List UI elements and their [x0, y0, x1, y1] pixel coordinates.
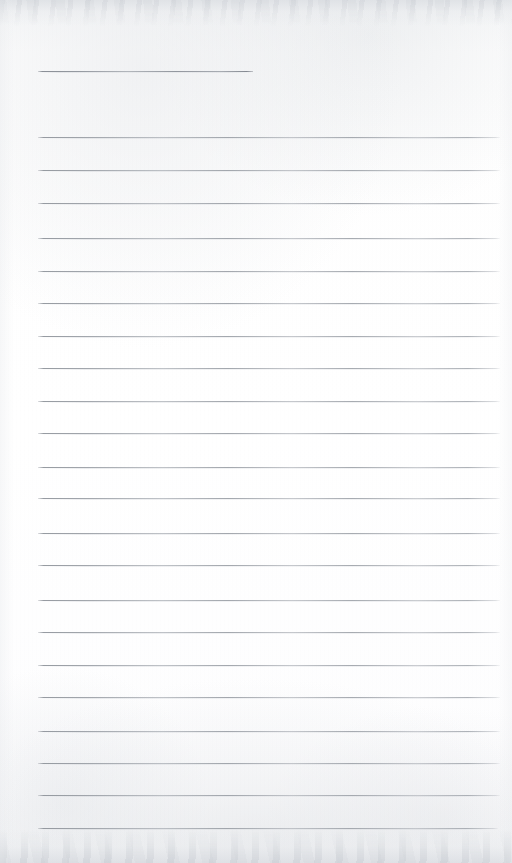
- ruled-line-2: [38, 170, 500, 171]
- ruled-line-16: [38, 632, 500, 633]
- ruled-line-9: [38, 401, 500, 402]
- ruled-line-19: [38, 731, 500, 732]
- ruled-line-21: [38, 795, 500, 796]
- ruled-line-6: [38, 303, 500, 304]
- ruled-line-10: [38, 433, 500, 434]
- ruled-line-18: [38, 697, 500, 698]
- ruled-line-8: [38, 368, 500, 369]
- ruled-line-12: [38, 498, 500, 499]
- ruled-line-17: [38, 665, 500, 666]
- ruled-line-15: [38, 600, 500, 601]
- ruled-line-5: [38, 271, 500, 272]
- ruled-line-22: [38, 828, 498, 829]
- scanned-page: [0, 0, 512, 863]
- ruled-line-14: [38, 565, 500, 566]
- ruled-lines-layer: [0, 0, 512, 863]
- ruled-line-13: [38, 533, 500, 534]
- ruled-line-7: [38, 336, 500, 337]
- header-rule-line: [38, 71, 253, 72]
- ruled-line-1: [38, 137, 500, 138]
- ruled-line-3: [38, 203, 500, 204]
- ruled-line-11: [38, 467, 500, 468]
- ruled-line-20: [38, 763, 500, 764]
- ruled-line-4: [38, 238, 500, 239]
